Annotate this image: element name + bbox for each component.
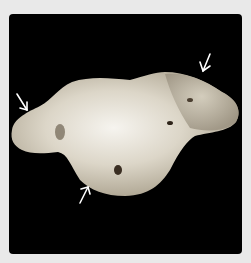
specimen-photo-panel [9,14,242,254]
specimen-image [9,14,242,254]
arrow-left [17,94,27,110]
arrow-bottom [80,187,90,203]
arrow-top-right [200,54,210,71]
